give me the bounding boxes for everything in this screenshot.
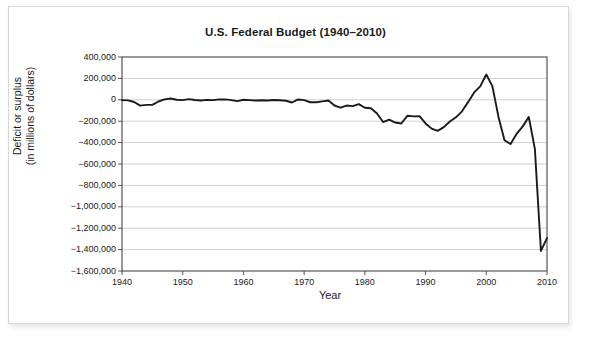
x-axis-ticks: [122, 271, 547, 275]
gridlines: [122, 78, 547, 249]
plot-area: [0, 0, 591, 346]
data-series-line: [122, 75, 547, 251]
chart-figure: U.S. Federal Budget (1940–2010) Deficit …: [0, 0, 591, 346]
